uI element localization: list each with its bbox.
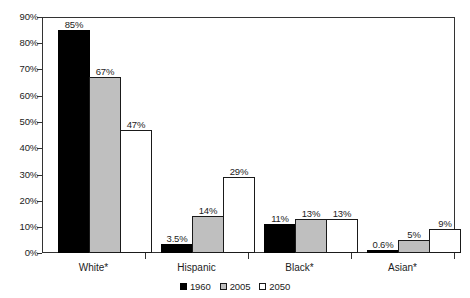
- bar-group-asian: 0.6% 5% 9%: [367, 17, 461, 253]
- legend-label: 2050: [269, 281, 290, 292]
- x-axis-separator: [454, 253, 455, 259]
- bar-1960-hispanic[interactable]: 3.5%: [161, 244, 193, 253]
- y-tick-label: 70%: [0, 64, 38, 74]
- bar-group-black: 11% 13% 13%: [264, 17, 358, 253]
- y-tick-label: 80%: [0, 38, 38, 48]
- x-category-label-asian: Asian*: [351, 262, 454, 274]
- x-category-label-hispanic: Hispanic: [145, 262, 248, 274]
- y-tick-label: 60%: [0, 91, 38, 101]
- bar-1960-asian[interactable]: 0.6%: [367, 250, 399, 253]
- legend-label: 2005: [230, 281, 251, 292]
- bar-value-label: 5%: [407, 229, 420, 240]
- x-axis-separator: [351, 253, 352, 259]
- bar-group-hispanic: 3.5% 14% 29%: [161, 17, 255, 253]
- legend-item-2050[interactable]: 2050: [259, 281, 290, 292]
- y-axis: 90% 80% 70% 60% 50% 40% 30% 20% 10% 0%: [0, 0, 38, 298]
- bar-2050-asian[interactable]: 9%: [429, 229, 461, 253]
- bar-1960-black[interactable]: 11%: [264, 224, 296, 253]
- bar-chart: 90% 80% 70% 60% 50% 40% 30% 20% 10% 0% 8…: [0, 0, 470, 298]
- y-tick-label: 40%: [0, 143, 38, 153]
- bar-value-label: 14%: [199, 205, 217, 216]
- bar-1960-white[interactable]: 85%: [58, 30, 90, 253]
- x-category-label-black: Black*: [248, 262, 351, 274]
- y-tick-label: 30%: [0, 170, 38, 180]
- y-tick-label: 90%: [0, 12, 38, 22]
- bar-value-label: 9%: [438, 218, 451, 229]
- y-tick-label: 0%: [0, 248, 38, 258]
- bar-value-label: 85%: [65, 19, 83, 30]
- bar-value-label: 0.6%: [373, 239, 394, 250]
- bar-2005-hispanic[interactable]: 14%: [192, 216, 224, 253]
- x-axis-separator: [248, 253, 249, 259]
- bar-value-label: 67%: [96, 66, 114, 77]
- bar-2050-white[interactable]: 47%: [120, 130, 152, 253]
- legend-label: 1960: [190, 281, 211, 292]
- legend-item-1960[interactable]: 1960: [180, 281, 211, 292]
- bar-2005-asian[interactable]: 5%: [398, 240, 430, 253]
- bar-value-label: 47%: [127, 119, 145, 130]
- legend-item-2005[interactable]: 2005: [220, 281, 251, 292]
- bar-group-white: 85% 67% 47%: [58, 17, 152, 253]
- bar-value-label: 13%: [333, 208, 351, 219]
- bar-value-label: 13%: [302, 208, 320, 219]
- legend-swatch-icon: [220, 283, 227, 290]
- bar-2005-black[interactable]: 13%: [295, 219, 327, 253]
- x-axis-separator: [145, 253, 146, 259]
- legend-swatch-icon: [259, 283, 266, 290]
- bar-value-label: 11%: [271, 213, 289, 224]
- bar-2005-white[interactable]: 67%: [89, 77, 121, 253]
- y-tick-label: 50%: [0, 117, 38, 127]
- bar-2050-hispanic[interactable]: 29%: [223, 177, 255, 253]
- bar-value-label: 3.5%: [167, 233, 188, 244]
- legend-swatch-icon: [180, 283, 187, 290]
- bars-layer: 85% 67% 47% 3.5% 14% 29% 11%: [42, 17, 455, 253]
- bar-2050-black[interactable]: 13%: [326, 219, 358, 253]
- y-tick-label: 20%: [0, 196, 38, 206]
- y-tick-label: 10%: [0, 222, 38, 232]
- chart-legend: 1960 2005 2050: [0, 281, 470, 292]
- x-category-label-white: White*: [42, 262, 145, 274]
- y-tick-mark: [37, 253, 42, 254]
- bar-value-label: 29%: [230, 166, 248, 177]
